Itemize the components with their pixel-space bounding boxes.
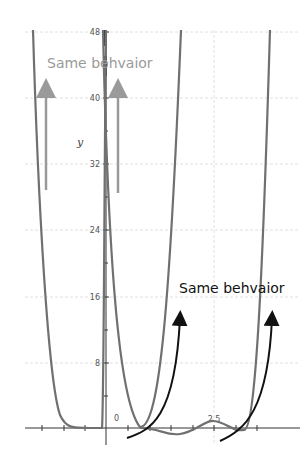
annotation-text-gray: Same behvaior bbox=[47, 55, 153, 71]
y-tick-0: 0 bbox=[114, 414, 119, 423]
x-axis bbox=[25, 425, 300, 431]
curves bbox=[33, 30, 270, 434]
curve-middle bbox=[103, 30, 181, 427]
y-tick-40: 40 bbox=[90, 94, 100, 103]
annotation-black: Same behvaior bbox=[127, 280, 285, 441]
y-tick-48: 48 bbox=[90, 28, 100, 37]
y-axis-label: y bbox=[76, 136, 84, 149]
y-tick-32: 32 bbox=[90, 160, 100, 169]
annotation-text-black: Same behvaior bbox=[179, 280, 285, 296]
gridlines bbox=[25, 30, 300, 445]
function-plot: 48 40 32 24 16 8 0 2.5 y Same behvaior S… bbox=[0, 0, 303, 459]
y-tick-16: 16 bbox=[90, 293, 100, 302]
y-tick-8: 8 bbox=[95, 359, 100, 368]
y-tick-24: 24 bbox=[90, 226, 100, 235]
annotation-gray: Same behvaior bbox=[46, 55, 153, 193]
arrow-curved-icon bbox=[220, 318, 272, 441]
